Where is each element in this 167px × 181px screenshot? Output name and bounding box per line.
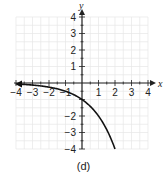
figure-caption: (d) [0, 160, 167, 172]
y-tick-label: 3 [70, 28, 76, 39]
graph: −4−3−2−112344321−2−3−4 x y [0, 0, 167, 158]
y-tick-label: −3 [65, 127, 77, 138]
x-tick-label: −4 [10, 87, 22, 98]
x-tick-label: 2 [112, 87, 118, 98]
x-axis-label: x [157, 78, 163, 89]
x-tick-label: 4 [145, 87, 151, 98]
y-tick-label: −4 [65, 144, 77, 155]
y-tick-label: 4 [70, 12, 76, 23]
y-tick-label: 2 [70, 45, 76, 56]
y-axis-label: y [78, 0, 84, 11]
y-tick-label: −2 [65, 111, 77, 122]
x-axis-arrow-icon [150, 80, 156, 86]
x-tick-label: −3 [27, 87, 39, 98]
y-tick-label: 1 [70, 61, 76, 72]
x-tick-label: 3 [129, 87, 135, 98]
axes [14, 9, 156, 149]
x-tick-label: 1 [96, 87, 102, 98]
